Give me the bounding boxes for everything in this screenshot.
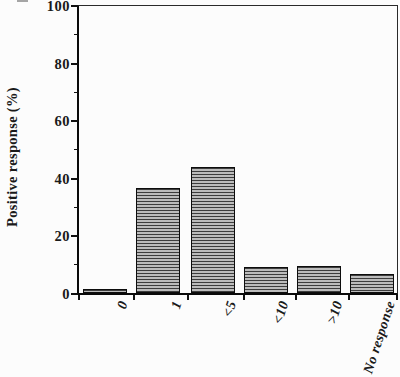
y-minor-tick: [74, 149, 78, 150]
x-category-label: 1: [168, 299, 186, 311]
x-axis-tick: [396, 295, 398, 300]
bar-chart-figure: Positive response (%) 02040608010001<5<1…: [0, 0, 400, 377]
bar-no-response: [350, 274, 394, 293]
x-category-label: >10: [324, 299, 346, 326]
y-tick-label: 100: [36, 0, 70, 13]
bar--10: [297, 266, 341, 293]
bar-0: [83, 289, 127, 293]
x-axis-tick: [133, 295, 135, 300]
x-category-label: 0: [114, 299, 132, 311]
y-tick-label: 20: [36, 229, 70, 243]
y-tick-label: 0: [36, 287, 70, 301]
y-major-tick: [71, 293, 78, 295]
y-axis-title: Positive response (%): [4, 77, 22, 237]
x-category-label: <5: [220, 299, 240, 319]
plot-area: [77, 5, 398, 295]
x-category-label: No response: [361, 299, 400, 376]
y-tick-label: 40: [36, 172, 70, 186]
x-axis-tick: [295, 295, 297, 300]
y-minor-tick: [74, 34, 78, 35]
bar-1: [136, 188, 180, 293]
y-major-tick: [71, 178, 78, 180]
y-major-tick: [71, 63, 78, 65]
y-tick-label: 80: [36, 57, 70, 71]
y-minor-tick: [74, 207, 78, 208]
x-axis-tick: [78, 295, 80, 300]
x-category-label: <10: [270, 299, 292, 326]
bar--10: [244, 267, 288, 293]
bar--5: [191, 167, 235, 294]
y-tick-label: 60: [36, 114, 70, 128]
y-major-tick: [71, 120, 78, 122]
x-axis-tick: [243, 295, 245, 300]
y-minor-tick: [74, 264, 78, 265]
scan-artifact-mark: [17, 0, 28, 2]
y-major-tick: [71, 5, 78, 7]
x-axis-tick: [187, 295, 189, 300]
y-major-tick: [71, 235, 78, 237]
x-axis-tick: [348, 295, 350, 300]
y-minor-tick: [74, 92, 78, 93]
